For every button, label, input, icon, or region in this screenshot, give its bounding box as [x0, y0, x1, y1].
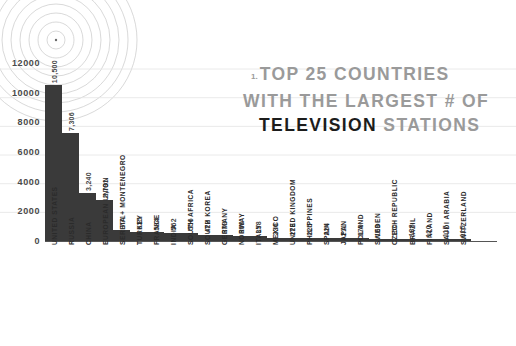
x-label-slot: SPAIN — [318, 245, 335, 345]
x-label-slot: PHILIPPINES — [301, 245, 318, 345]
x-axis-label: NORWAY — [238, 213, 245, 245]
x-axis-label: SOUTH AFRICA — [186, 189, 193, 245]
x-axis-label: GERMANY — [220, 207, 227, 245]
x-axis-label: SOUTH KOREA — [203, 190, 210, 245]
y-axis-tick: 0 — [34, 236, 40, 246]
x-label-slot: SERBIA + MONTENEGRO — [113, 245, 130, 345]
x-axis-label: RUSSIA — [67, 217, 74, 245]
x-label-slot: FINLAND — [420, 245, 437, 345]
x-label-slot: SOUTH AFRICA — [181, 245, 198, 345]
x-label-slot: FRANCE — [147, 245, 164, 345]
bar-slot — [318, 48, 335, 241]
x-axis-label: TURKEY — [135, 215, 142, 245]
x-label-slot: MEXICO — [267, 245, 284, 345]
x-label-slot: SOUTH KOREA — [198, 245, 215, 345]
x-label-slot: EUROPEAN UNION — [96, 245, 113, 345]
y-axis-tick: 10000 — [12, 88, 40, 98]
x-label-slot: SWITZERLAND — [454, 245, 471, 345]
plot-area — [45, 48, 471, 241]
x-axis-label: ITALY — [255, 224, 262, 245]
x-label-slot: CZECH REPUBLIC — [386, 245, 403, 345]
bar-slot — [335, 48, 352, 241]
y-axis: 020004000600080001000012000 — [0, 48, 40, 241]
bar-slot — [130, 48, 147, 241]
x-axis-label: JAPAN — [340, 220, 347, 245]
x-axis-label: UNITED KINGDOM — [289, 179, 296, 245]
x-axis-label: SERBIA + MONTENEGRO — [118, 154, 125, 245]
x-axis-label: SWEDEN — [374, 213, 381, 245]
x-label-slot: ITALY — [250, 245, 267, 345]
x-label-slot: NORWAY — [233, 245, 250, 345]
bar-series — [45, 48, 471, 241]
x-label-slot: INDIA — [164, 245, 181, 345]
x-label-slot: SAUDI ARABIA — [437, 245, 454, 345]
x-axis-label: SPAIN — [323, 223, 330, 245]
y-axis-tick: 2000 — [18, 206, 40, 216]
bar-slot — [352, 48, 369, 241]
x-axis-label: SAUDI ARABIA — [442, 191, 449, 245]
x-label-slot: BRAZIL — [403, 245, 420, 345]
x-axis-label: FRANCE — [152, 214, 159, 245]
x-label-slot: UNITED STATES — [45, 245, 62, 345]
x-label-slot: GERMANY — [215, 245, 232, 345]
bar-slot — [147, 48, 164, 241]
bar-slot — [403, 48, 420, 241]
bar-slot — [164, 48, 181, 241]
x-axis-label: INDIA — [169, 224, 176, 245]
x-axis-label: EUROPEAN UNION — [101, 177, 108, 245]
x-label-slot: UNITED KINGDOM — [284, 245, 301, 345]
x-axis-label: MEXICO — [272, 216, 279, 245]
y-axis-tick: 12000 — [12, 58, 40, 68]
bar-slot — [79, 48, 96, 241]
x-axis-label: SWITZERLAND — [459, 191, 466, 245]
x-axis-labels: UNITED STATESRUSSIACHINAEUROPEAN UNIONSE… — [45, 245, 471, 345]
x-axis-label: FINLAND — [425, 212, 432, 245]
y-axis-tick: 6000 — [18, 147, 40, 157]
bar-slot — [267, 48, 284, 241]
x-axis-label: CZECH REPUBLIC — [391, 179, 398, 245]
chart-page: 1.TOP 25 COUNTRIES WITH THE LARGEST # OF… — [0, 0, 516, 346]
y-axis-tick: 4000 — [18, 177, 40, 187]
x-label-slot: POLAND — [352, 245, 369, 345]
x-axis-label: CHINA — [84, 221, 91, 245]
y-axis-tick: 8000 — [18, 117, 40, 127]
x-axis-label: PHILIPPINES — [306, 198, 313, 245]
x-label-slot: TURKEY — [130, 245, 147, 345]
x-label-slot: JAPAN — [335, 245, 352, 345]
x-axis-label: UNITED STATES — [50, 186, 57, 245]
bar-slot — [250, 48, 267, 241]
x-label-slot: RUSSIA — [62, 245, 79, 345]
x-label-slot: SWEDEN — [369, 245, 386, 345]
x-axis-label: BRAZIL — [408, 218, 415, 245]
bar-slot — [62, 48, 79, 241]
x-label-slot: CHINA — [79, 245, 96, 345]
x-axis-label: POLAND — [357, 214, 364, 245]
